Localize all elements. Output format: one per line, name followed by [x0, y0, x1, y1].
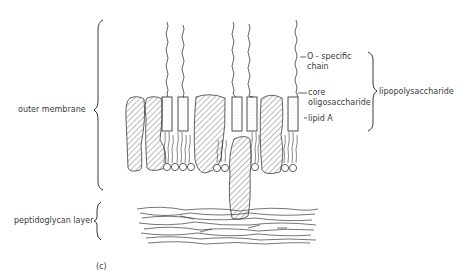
peptidoglycan-layer-label: peptidoglycan layer	[14, 216, 93, 225]
peptidoglycan-strands	[137, 207, 318, 244]
lipopolysaccharide-label: lipopolysaccharide	[379, 87, 454, 96]
diagram-canvas	[0, 0, 471, 279]
outer-membrane-label: outer membrane	[18, 105, 86, 114]
leader-lines	[298, 57, 307, 118]
o-specific-chains	[166, 20, 298, 97]
panel-label: (c)	[96, 262, 107, 271]
outer-membrane-brace	[94, 20, 103, 190]
membrane-proteins	[126, 95, 283, 219]
peptidoglycan-brace	[94, 202, 101, 240]
outer-membrane-diagram: outer membrane peptidoglycan layer O - s…	[0, 0, 471, 279]
o-specific-chain-label-line2: chain	[307, 62, 329, 71]
core-label-line1: core	[308, 88, 325, 97]
lipid-a-label: lipid A	[308, 114, 333, 123]
o-specific-chain-label-line1: O - specific	[307, 52, 352, 61]
core-label-line2: oligosaccharide	[308, 98, 371, 107]
lipopolysaccharide-brace	[368, 52, 377, 131]
